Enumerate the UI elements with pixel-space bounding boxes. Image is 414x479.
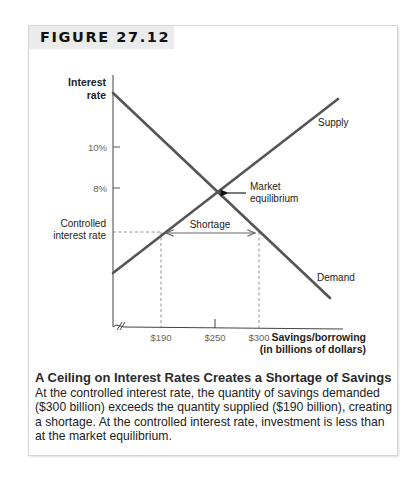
caption-body: At the controlled interest rate, the qua… bbox=[35, 386, 392, 444]
equilibrium-label-line1: Market bbox=[250, 181, 281, 192]
y-axis-title-line2: rate bbox=[87, 89, 106, 101]
equilibrium-label-line2: equilibrium bbox=[250, 193, 298, 204]
y-tick-label-10: 10% bbox=[88, 142, 108, 153]
y-tick-label-8: 8% bbox=[93, 183, 107, 194]
controlled-rate-label-line2: interest rate bbox=[53, 230, 106, 241]
supply-label: Supply bbox=[318, 117, 349, 128]
x-axis-title-line1: Savings/borrowing bbox=[271, 331, 366, 343]
x-tick-label-190: $190 bbox=[150, 332, 171, 343]
x-axis-title-line2: (in billions of dollars) bbox=[260, 343, 366, 355]
figure-caption: A Ceiling on Interest Rates Creates a Sh… bbox=[35, 371, 395, 444]
controlled-rate-label-line1: Controlled bbox=[60, 218, 106, 229]
shortage-label: Shortage bbox=[190, 219, 231, 230]
x-axis bbox=[113, 325, 343, 329]
demand-label: Demand bbox=[317, 272, 355, 283]
y-axis-title-line1: Interest bbox=[68, 76, 106, 88]
x-tick-label-250: $250 bbox=[204, 332, 225, 343]
x-tick-label-300: $300 bbox=[248, 332, 269, 343]
caption-title: A Ceiling on Interest Rates Creates a Sh… bbox=[35, 371, 395, 386]
